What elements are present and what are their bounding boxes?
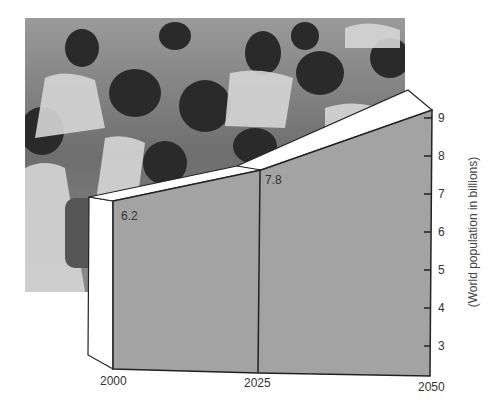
population-chart: 9 8 7 6 5 4 3 6.2 7.8 2000 2025 2050 (Wo… [0,0,503,412]
y-axis-labels: 9 8 7 6 5 4 3 [438,111,445,353]
y-tick-3: 3 [438,339,445,353]
x-label-2050: 2050 [418,380,445,394]
y-tick-6: 6 [438,225,445,239]
side-face [88,197,113,369]
y-tick-5: 5 [438,263,445,277]
data-label-2000: 6.2 [121,209,138,223]
x-label-2025: 2025 [244,376,271,390]
y-tick-9: 9 [438,111,445,125]
y-tick-4: 4 [438,301,445,315]
y-axis-title: (World population in billions) [466,157,480,308]
x-label-2000: 2000 [100,374,127,388]
y-tick-7: 7 [438,187,445,201]
chart-plot-area: 9 8 7 6 5 4 3 6.2 7.8 2000 2025 2050 [0,0,503,412]
y-tick-8: 8 [438,149,445,163]
data-label-2025: 7.8 [265,173,282,187]
